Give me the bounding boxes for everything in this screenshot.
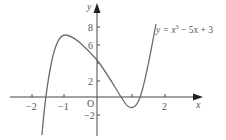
x-axis-label: x [195, 99, 201, 110]
y-tick-label-8: 8 [88, 22, 93, 33]
y-tick-label-2: 2 [88, 76, 93, 87]
x-tick-label-neg1: −1 [58, 101, 69, 112]
y-axis-arrow-icon [94, 3, 101, 13]
equation-label: y = x3 − 5x + 3 [155, 24, 213, 35]
x-tick-label-2: 2 [162, 101, 167, 112]
y-tick-label-6: 6 [88, 40, 93, 51]
y-tick-label-neg2: −2 [84, 110, 95, 121]
x-tick-label-neg2: −2 [26, 101, 37, 112]
cubic-curve [42, 24, 156, 135]
origin-label: O [87, 98, 94, 109]
y-axis-label: y [86, 1, 92, 12]
x-axis [10, 94, 203, 101]
cubic-graph: −2 −1 2 8 6 2 −2 O x y y = x3 − 5x + 3 [0, 0, 226, 140]
